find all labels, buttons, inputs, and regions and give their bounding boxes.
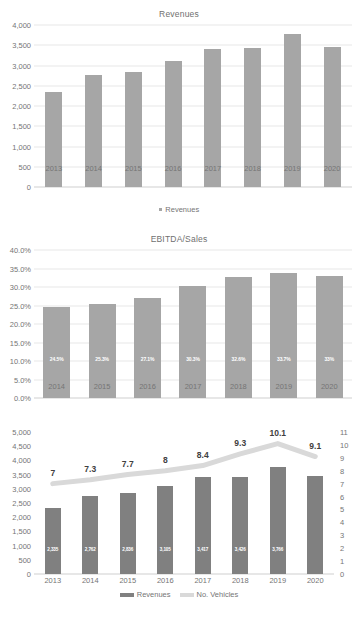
y-tick-label: 11 bbox=[340, 428, 348, 437]
bar-group: 3,105 bbox=[147, 432, 185, 574]
legend-label: Revenues bbox=[165, 205, 199, 214]
bar-group: 3,426 bbox=[222, 432, 260, 574]
bar-value-label: 3,105 bbox=[160, 547, 171, 552]
bar-group: 3,766 bbox=[259, 432, 297, 574]
x-tick-label: 2013 bbox=[34, 164, 74, 173]
y-tick-label: 5 bbox=[340, 505, 344, 514]
x-tick-label: 2019 bbox=[273, 164, 313, 173]
chart-combo-x-axis: 20132014201520162017201820192020 bbox=[34, 576, 334, 585]
x-tick-label: 2018 bbox=[233, 164, 273, 173]
bar-group: 27.1% bbox=[125, 250, 170, 398]
bar-value-label: 2,836 bbox=[122, 547, 133, 552]
y-tick-label: 500 bbox=[18, 555, 31, 564]
y-tick-label: 8 bbox=[340, 466, 344, 475]
x-tick-label: 2020 bbox=[307, 382, 352, 391]
bar: 3,426 bbox=[232, 477, 248, 574]
chart-combo-legend: Revenues No. Vehicles bbox=[0, 590, 358, 599]
y-tick-label: 9 bbox=[340, 453, 344, 462]
chart-revenues-y-axis: 05001,0001,5002,0002,5003,0003,5004,000 bbox=[0, 25, 34, 187]
x-tick-label: 2014 bbox=[72, 576, 110, 585]
y-tick-label: 2,000 bbox=[12, 513, 31, 522]
bar: 33.7% bbox=[270, 273, 297, 398]
bar-value-label: 3,417 bbox=[197, 547, 208, 552]
legend-swatch-square-icon bbox=[159, 208, 163, 212]
bar-group: 33% bbox=[307, 250, 352, 398]
x-tick-label: 2014 bbox=[34, 382, 79, 391]
y-tick-label: 7 bbox=[340, 479, 344, 488]
y-tick-label: 2,000 bbox=[12, 102, 31, 111]
bar: 32.6% bbox=[225, 277, 252, 398]
y-tick-label: 5.0% bbox=[14, 375, 31, 384]
x-tick-label: 2017 bbox=[184, 576, 222, 585]
bar-group bbox=[297, 432, 335, 574]
y-tick-label: 6 bbox=[340, 492, 344, 501]
y-tick-label: 1,000 bbox=[12, 142, 31, 151]
chart-ebitda-title: EBITDA/Sales bbox=[0, 232, 358, 244]
bar-group bbox=[233, 25, 273, 187]
bar-value-label: 25.3% bbox=[95, 356, 109, 362]
y-tick-label: 3,500 bbox=[12, 41, 31, 50]
bar-value-label: 27.1% bbox=[141, 356, 155, 362]
chart-ebitda-plot: 0.0%5.0%10.0%15.0%20.0%25.0%30.0%35.0%40… bbox=[0, 250, 358, 398]
bar-value-label: 3,426 bbox=[235, 547, 246, 552]
bar-value-label: 2,335 bbox=[47, 547, 58, 552]
y-tick-label: 10 bbox=[340, 440, 348, 449]
chart-revenues-gridlines bbox=[34, 25, 352, 187]
x-tick-label: 2019 bbox=[261, 382, 306, 391]
y-tick-label: 2,500 bbox=[12, 81, 31, 90]
y-tick-label: 1,000 bbox=[12, 541, 31, 550]
bar-group: 30.3% bbox=[170, 250, 215, 398]
legend-item-no-vehicles: No. Vehicles bbox=[180, 590, 239, 599]
bar-group bbox=[153, 25, 193, 187]
chart-ebitda-y-axis: 0.0%5.0%10.0%15.0%20.0%25.0%30.0%35.0%40… bbox=[0, 250, 34, 398]
bar-group bbox=[312, 25, 352, 187]
x-tick-label: 2013 bbox=[34, 576, 72, 585]
y-tick-label: 0 bbox=[340, 570, 344, 579]
bar-group: 2,335 bbox=[34, 432, 72, 574]
bar: 3,766 bbox=[270, 467, 286, 574]
y-tick-label: 4,000 bbox=[12, 21, 31, 30]
y-tick-label: 15.0% bbox=[10, 338, 31, 347]
legend-item-revenues: Revenues bbox=[120, 590, 171, 599]
legend-label: Revenues bbox=[137, 590, 171, 599]
y-tick-label: 20.0% bbox=[10, 320, 31, 329]
bar-group: 25.3% bbox=[79, 250, 124, 398]
y-tick-label: 3,000 bbox=[12, 484, 31, 493]
y-tick-label: 0 bbox=[27, 570, 31, 579]
bar-group: 33.7% bbox=[261, 250, 306, 398]
y-tick-label: 4,000 bbox=[12, 456, 31, 465]
chart-combo-plot: 05001,0001,5002,0002,5003,0003,5004,0004… bbox=[0, 432, 358, 574]
x-tick-label: 2017 bbox=[193, 164, 233, 173]
bar-group: 24.5% bbox=[34, 250, 79, 398]
bar: 2,836 bbox=[120, 493, 136, 574]
bar-group bbox=[273, 25, 313, 187]
y-tick-label: 1,500 bbox=[12, 527, 31, 536]
chart-combo-y-axis-left: 05001,0001,5002,0002,5003,0003,5004,0004… bbox=[0, 432, 34, 574]
bar-value-label: 33% bbox=[324, 356, 334, 362]
chart-ebitda-bars: 24.5%25.3%27.1%30.3%32.6%33.7%33% bbox=[34, 250, 352, 398]
x-tick-label: 2016 bbox=[125, 382, 170, 391]
bar-group: 2,836 bbox=[109, 432, 147, 574]
x-tick-label: 2017 bbox=[170, 382, 215, 391]
y-tick-label: 4 bbox=[340, 518, 344, 527]
chart-combo-y-axis-right: 01234567891011 bbox=[336, 432, 358, 574]
legend-swatch-bar-icon bbox=[120, 593, 134, 597]
y-tick-label: 3 bbox=[340, 531, 344, 540]
bar: 33% bbox=[316, 276, 343, 398]
chart-revenues-legend: Revenues bbox=[0, 205, 358, 214]
y-tick-label: 30.0% bbox=[10, 283, 31, 292]
bar-group bbox=[34, 25, 74, 187]
x-tick-label: 2020 bbox=[297, 576, 335, 585]
y-tick-label: 5,000 bbox=[12, 428, 31, 437]
y-tick-label: 500 bbox=[18, 162, 31, 171]
bar-group: 32.6% bbox=[216, 250, 261, 398]
bar-group bbox=[114, 25, 154, 187]
legend-label: No. Vehicles bbox=[197, 590, 239, 599]
bar-value-label: 32.6% bbox=[232, 356, 246, 362]
y-tick-label: 3,000 bbox=[12, 61, 31, 70]
chart-combo-plotarea: 2,3352,7622,8363,1053,4173,4263,766 77.3… bbox=[34, 432, 334, 574]
x-tick-label: 2019 bbox=[259, 576, 297, 585]
y-tick-label: 10.0% bbox=[10, 357, 31, 366]
x-tick-label: 2016 bbox=[147, 576, 185, 585]
x-tick-label: 2018 bbox=[216, 382, 261, 391]
